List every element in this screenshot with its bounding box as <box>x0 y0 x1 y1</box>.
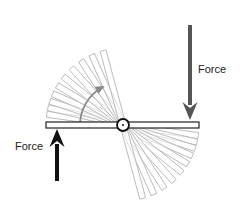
left-force-label: Force <box>15 141 43 152</box>
pivot-icon <box>117 119 129 131</box>
pivot-dot <box>122 124 124 126</box>
arrow-shaft <box>188 25 192 105</box>
arrow-shaft <box>55 144 59 181</box>
right-force-arrow-icon <box>183 25 198 120</box>
right-force-label: Force <box>198 64 226 75</box>
lever-diagram <box>0 0 242 211</box>
left-force-arrow-icon <box>50 129 65 181</box>
